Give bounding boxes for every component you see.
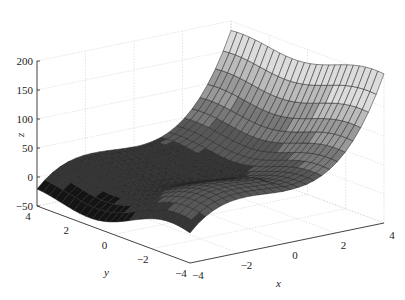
y-tick-label: 0 [102, 239, 108, 251]
y-tick-label: 2 [64, 224, 70, 236]
x-tick-label: 4 [389, 229, 395, 241]
surface-mesh [37, 31, 384, 233]
y-tick-label: 4 [25, 210, 31, 222]
z-tick-label: 0 [28, 171, 34, 183]
x-tick-label: −4 [192, 269, 204, 281]
x-tick-label: 0 [292, 249, 298, 261]
y-tick-label: −2 [137, 253, 149, 265]
z-tick-label: 150 [17, 84, 34, 96]
x-axis-label: x [275, 277, 281, 289]
z-tick-label: 100 [17, 113, 34, 125]
y-axis-label: y [103, 266, 109, 278]
surface-plot: 200150100500−50420−2−4−4−2024 z y x [0, 0, 405, 300]
z-tick-label: 200 [17, 55, 34, 67]
z-tick-label: 50 [22, 142, 34, 154]
x-tick-label: −2 [241, 259, 253, 271]
y-tick-label: −4 [175, 267, 187, 279]
x-tick-label: 2 [341, 239, 347, 251]
z-axis-label: z [14, 132, 26, 138]
